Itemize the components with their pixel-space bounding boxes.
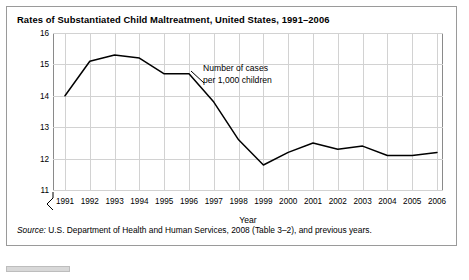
annotation-line-1: Number of cases <box>203 62 272 74</box>
figure-panel: Rates of Substantiated Child Maltreatmen… <box>6 6 457 246</box>
x-axis-title: Year <box>53 215 443 225</box>
ytick-13: 13 <box>17 123 49 132</box>
annotation-leader-line <box>53 33 443 191</box>
source-text: U.S. Department of Health and Human Serv… <box>46 225 372 235</box>
source-note: Source: U.S. Department of Health and Hu… <box>17 225 372 235</box>
source-label: Source: <box>17 225 46 235</box>
chart-title: Rates of Substantiated Child Maltreatmen… <box>17 14 330 25</box>
chart-annotation: Number of cases per 1,000 children <box>203 62 272 86</box>
xtick-2006: 2006 <box>420 197 454 206</box>
bottom-scroll-indicator <box>6 266 70 272</box>
annotation-line-2: per 1,000 children <box>203 74 272 86</box>
ytick-12: 12 <box>17 154 49 163</box>
ytick-14: 14 <box>17 91 49 100</box>
ytick-15: 15 <box>17 60 49 69</box>
plot-area <box>53 33 443 191</box>
ytick-16: 16 <box>17 29 49 38</box>
